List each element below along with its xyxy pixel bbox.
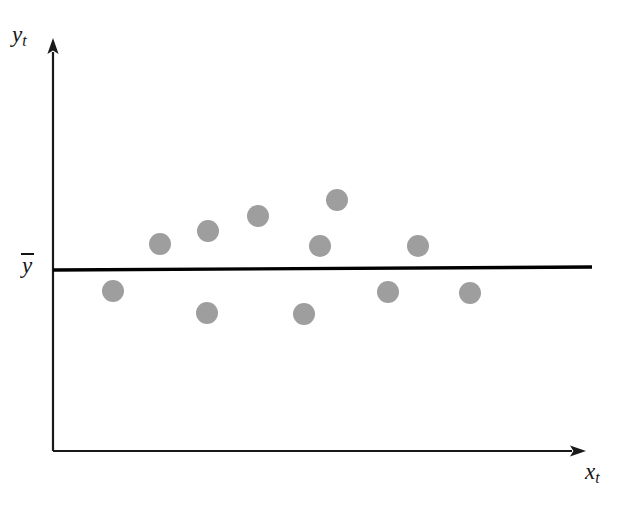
x-axis-label: xt	[585, 459, 600, 485]
y-axis-label-base: y	[12, 22, 22, 47]
y-axis-arrowhead	[47, 38, 58, 54]
data-point	[459, 282, 481, 304]
data-point	[196, 302, 218, 324]
data-point	[197, 220, 219, 242]
data-point-group	[102, 189, 481, 325]
data-point	[293, 303, 315, 325]
mean-line-label-text: y	[22, 252, 32, 279]
data-point	[247, 205, 269, 227]
data-point	[326, 189, 348, 211]
data-point	[377, 281, 399, 303]
mean-line	[53, 267, 592, 270]
data-point	[309, 235, 331, 257]
x-axis-label-subscript: t	[595, 469, 599, 486]
plot-canvas	[0, 0, 630, 507]
y-axis-label: yt	[12, 22, 27, 48]
y-axis-label-subscript: t	[22, 32, 26, 49]
mean-line-label: y	[22, 252, 32, 279]
data-point	[407, 235, 429, 257]
scatter-plot-figure: yt xt y	[0, 0, 630, 507]
x-axis-label-base: x	[585, 459, 595, 484]
x-axis-arrowhead	[570, 445, 586, 456]
data-point	[149, 233, 171, 255]
data-point	[102, 280, 124, 302]
